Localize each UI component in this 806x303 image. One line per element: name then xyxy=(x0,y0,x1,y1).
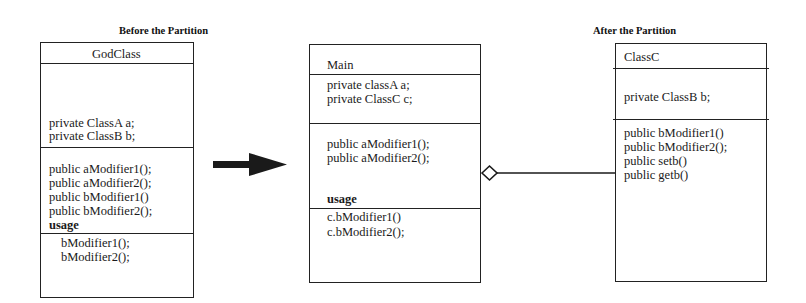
aggregation-diamond-icon xyxy=(482,166,615,180)
right-arrow-icon xyxy=(213,153,287,176)
connectors-layer xyxy=(0,0,806,303)
